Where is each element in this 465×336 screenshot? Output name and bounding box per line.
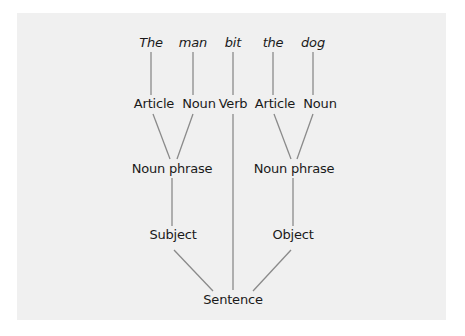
node-article-2: Article xyxy=(255,97,295,111)
node-object: Object xyxy=(272,228,313,242)
node-noun-2: Noun xyxy=(303,97,336,111)
word-man: man xyxy=(179,36,207,50)
node-noun-phrase-2: Noun phrase xyxy=(254,162,335,176)
node-noun-1: Noun xyxy=(182,97,215,111)
node-article-1: Article xyxy=(134,97,174,111)
word-bit: bit xyxy=(225,36,241,50)
node-verb: Verb xyxy=(219,97,248,111)
word-the-2: the xyxy=(263,36,284,50)
node-subject: Subject xyxy=(149,228,196,242)
tree-edges xyxy=(0,0,465,336)
node-sentence: Sentence xyxy=(203,293,262,307)
node-noun-phrase-1: Noun phrase xyxy=(132,162,213,176)
word-dog: dog xyxy=(301,36,325,50)
word-the: The xyxy=(139,36,163,50)
